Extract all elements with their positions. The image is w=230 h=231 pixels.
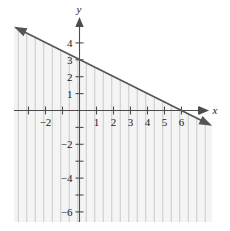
x-tick-label: 2 — [111, 116, 117, 128]
y-tick-label: −4 — [61, 172, 73, 184]
x-tick-label: 5 — [162, 116, 168, 128]
x-tick-label: 6 — [179, 116, 185, 128]
y-tick-label: 2 — [67, 71, 73, 83]
boundary-lower-arrow-icon — [199, 116, 213, 126]
y-tick-label: −2 — [61, 138, 73, 150]
graph-canvas: −21234564321−2−4−6 x y — [0, 0, 230, 231]
inequality-graph-figure: −21234564321−2−4−6 x y — [0, 0, 230, 231]
x-axis-arrow-icon — [199, 106, 209, 114]
y-tick-label: 3 — [67, 54, 73, 66]
x-tick-label: 1 — [94, 116, 100, 128]
y-axis-arrow-icon — [75, 17, 83, 27]
x-tick-label: 3 — [128, 116, 134, 128]
x-tick-label: 4 — [145, 116, 151, 128]
y-tick-label: 1 — [67, 88, 73, 100]
x-tick-label: −2 — [40, 116, 52, 128]
y-tick-label: 4 — [67, 37, 73, 49]
x-axis-label: x — [212, 104, 218, 116]
y-axis-label: y — [76, 3, 82, 15]
y-tick-label: −6 — [61, 206, 73, 218]
